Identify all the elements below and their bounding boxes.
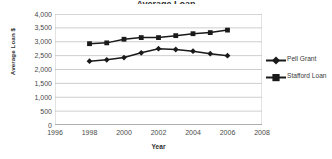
y-axis-tick-label: 1,000 [8,94,52,101]
chart-svg [55,14,262,125]
chart-container: Average Loan Average Loan $ 05001,0001,5… [0,0,332,159]
y-axis-tick-label: 1,500 [8,80,52,87]
legend-label: Stafford Loan [286,72,326,80]
gridlines [55,14,262,125]
data-series-layer [87,28,231,64]
x-axis-tick-label: 2008 [242,129,282,136]
chart-legend: Pell Grant Stafford Loan [266,55,332,89]
y-axis-tick-label: 3,000 [8,38,52,45]
y-axis-tick-label: 0 [8,122,52,129]
x-axis-title: Year [55,143,262,150]
y-axis-tick-label: 4,000 [8,11,52,18]
y-axis-tick-label: 500 [8,108,52,115]
diamond-marker-icon [266,56,286,65]
legend-label: Pell Grant [286,55,316,63]
legend-item-pell-grant: Pell Grant [266,55,332,65]
y-axis-tick-label: 2,000 [8,66,52,73]
y-axis-tick-label: 2,500 [8,52,52,59]
plot-area [55,14,262,125]
legend-item-stafford-loan: Stafford Loan [266,72,332,82]
y-axis-tick-label: 3,500 [8,24,52,31]
square-marker-icon [266,73,286,82]
x-axis-ticks: 1996199820002002200420062008 [0,129,332,141]
